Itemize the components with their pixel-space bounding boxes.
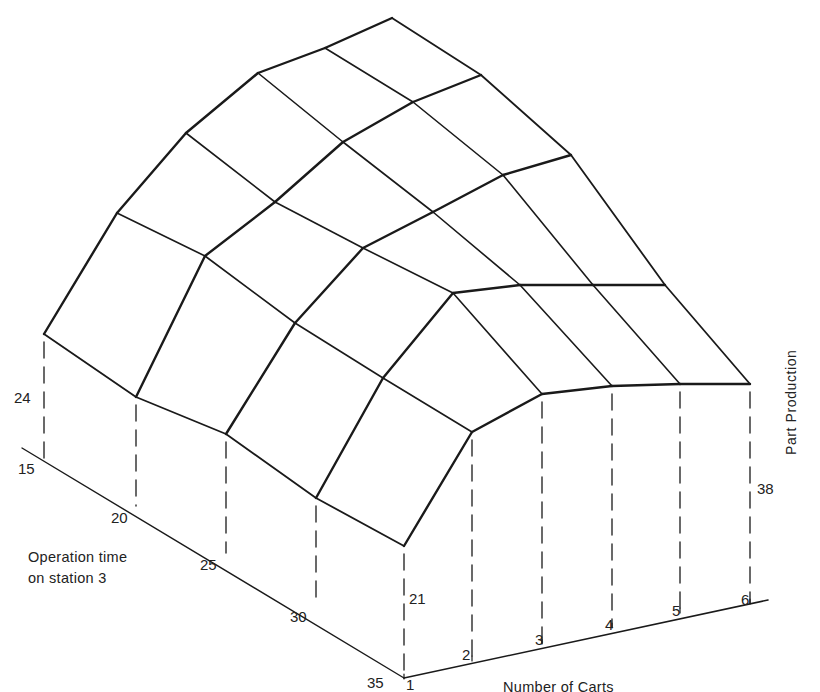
surface-edge-optime (316, 498, 404, 546)
op-tick-20: 20 (111, 510, 128, 525)
value-label-21: 21 (409, 591, 426, 606)
cart-tick-5: 5 (672, 603, 680, 618)
surface-edge-optime (413, 102, 503, 175)
depth-axis-title-line2: on station 3 (28, 568, 127, 589)
surface-edge-optime (275, 202, 363, 248)
surface-edge-optime (44, 334, 136, 397)
surface-edge-carts (44, 213, 117, 334)
surface-edge-carts (258, 48, 325, 73)
surface-edge-optime (325, 48, 413, 102)
surface-edge-optime (117, 213, 205, 256)
cart-tick-4: 4 (605, 617, 613, 632)
surface-edge-optime (571, 155, 665, 285)
surface-edge-optime (258, 73, 343, 142)
value-label-24: 24 (14, 390, 31, 405)
surface-edge-optime (593, 285, 680, 384)
surface-edge-optime (392, 18, 481, 75)
value-label-38: 38 (757, 481, 774, 496)
surface-wireframe (44, 18, 750, 546)
surface-edge-optime (363, 248, 453, 293)
surface-edge-carts (316, 378, 383, 498)
op-tick-15: 15 (18, 461, 35, 476)
surface-edge-carts (186, 73, 258, 133)
cart-tick-2: 2 (462, 647, 470, 662)
surface-edge-optime (665, 285, 750, 384)
surface-edge-carts (542, 386, 612, 394)
surface-edge-carts (136, 256, 205, 397)
surface-edge-carts (295, 248, 363, 323)
surface-edge-carts (343, 102, 413, 142)
surface-edge-carts (117, 133, 186, 213)
cart-tick-3: 3 (535, 632, 543, 647)
depth-axis-title-line1: Operation time (28, 547, 127, 568)
surface-edge-carts (325, 18, 392, 48)
surface-edge-optime (205, 256, 295, 323)
z-axis-title: Part Production (783, 350, 799, 456)
surface-edge-carts (612, 384, 680, 386)
surface-edge-carts (275, 142, 343, 202)
floor-axes (22, 448, 768, 679)
surface-edge-optime (453, 293, 542, 394)
carts-axis (404, 600, 768, 678)
x-axis-title: Number of Carts (503, 680, 614, 692)
surface-edge-optime (295, 323, 383, 378)
surface-edge-optime (186, 133, 275, 202)
drop-lines (44, 342, 750, 678)
surface-edge-carts (205, 202, 275, 256)
surface-edge-carts (503, 155, 571, 175)
surface-edge-carts (433, 175, 503, 212)
surface-edge-carts (472, 394, 542, 432)
depth-axis-title: Operation time on station 3 (28, 547, 127, 589)
cart-tick-6: 6 (741, 592, 749, 607)
surface-edge-optime (433, 212, 520, 285)
surface-edge-carts (453, 285, 520, 293)
op-tick-35: 35 (367, 675, 384, 690)
surface-edge-optime (226, 434, 316, 498)
surface-edge-optime (136, 397, 226, 434)
surface-edge-optime (520, 285, 612, 386)
surface-edge-carts (413, 75, 481, 102)
surface-edge-optime (481, 75, 571, 155)
surface-edge-optime (343, 142, 433, 212)
surface-edge-optime (383, 378, 472, 432)
surface-edge-optime (503, 175, 593, 285)
surface-edge-carts (404, 432, 472, 546)
op-tick-30: 30 (290, 609, 307, 624)
surface-edge-carts (383, 293, 453, 378)
op-tick-25: 25 (200, 557, 217, 572)
surface-edge-carts (363, 212, 433, 248)
cart-tick-1: 1 (406, 677, 414, 692)
surface-edge-carts (226, 323, 295, 434)
